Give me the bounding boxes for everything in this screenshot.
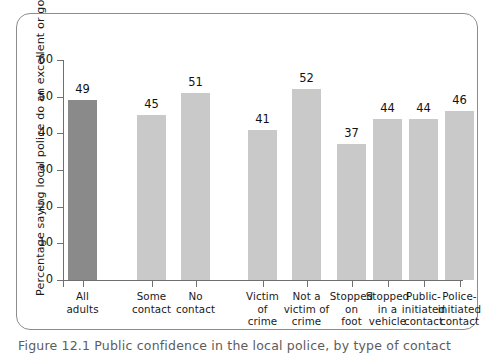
- bar-value-label: 52: [280, 73, 333, 85]
- bar-value-label: 51: [169, 77, 222, 89]
- x-axis-label-line: All: [59, 290, 107, 303]
- x-axis-label-line: crime: [239, 315, 287, 328]
- x-axis-label-line: victim of: [283, 303, 331, 316]
- bar: [68, 100, 97, 280]
- x-axis-tick: [83, 281, 84, 287]
- x-axis-label: Police-initiatedcontact: [436, 290, 484, 328]
- x-axis-label-line: contact: [436, 315, 484, 328]
- x-axis-tick: [460, 281, 461, 287]
- bar-value-label: 45: [125, 99, 178, 111]
- x-axis-label: Not avictim ofcrime: [283, 290, 331, 328]
- x-axis-label: Victimofcrime: [239, 290, 287, 328]
- x-axis-tick: [424, 281, 425, 287]
- x-axis-label-line: contact: [172, 303, 220, 316]
- x-axis-tick: [307, 281, 308, 287]
- figure-caption: Figure 12.1 Public confidence in the loc…: [18, 338, 488, 353]
- x-axis-label-line: Not a: [283, 290, 331, 303]
- x-axis-label-line: contact: [128, 303, 176, 316]
- bar: [248, 130, 277, 280]
- x-axis-tick-origin: [63, 281, 64, 287]
- x-axis-label-line: Some: [128, 290, 176, 303]
- bar: [337, 144, 366, 280]
- x-axis-label-line: No: [172, 290, 220, 303]
- bar-value-label: 49: [56, 84, 109, 96]
- x-axis-label-line: Victim: [239, 290, 287, 303]
- bar-value-label: 46: [433, 95, 486, 107]
- x-axis-label-line: adults: [59, 303, 107, 316]
- bar: [373, 119, 402, 280]
- x-axis-tick: [388, 281, 389, 287]
- x-axis-tick: [263, 281, 264, 287]
- x-axis-label-line: crime: [283, 315, 331, 328]
- bar: [292, 89, 321, 280]
- bar: [137, 115, 166, 280]
- bar-value-label: 37: [325, 128, 378, 140]
- x-axis-label-line: initiated: [436, 303, 484, 316]
- x-axis-label: Nocontact: [172, 290, 220, 315]
- x-axis-tick: [152, 281, 153, 287]
- x-axis-label-line: of: [239, 303, 287, 316]
- x-axis-tick: [196, 281, 197, 287]
- bar-value-label: 41: [236, 114, 289, 126]
- x-axis-label: Somecontact: [128, 290, 176, 315]
- x-axis-label-line: Police-: [436, 290, 484, 303]
- x-axis-tick: [352, 281, 353, 287]
- bar: [445, 111, 474, 280]
- x-axis-label: Alladults: [59, 290, 107, 315]
- bar: [409, 119, 438, 280]
- bar: [181, 93, 210, 280]
